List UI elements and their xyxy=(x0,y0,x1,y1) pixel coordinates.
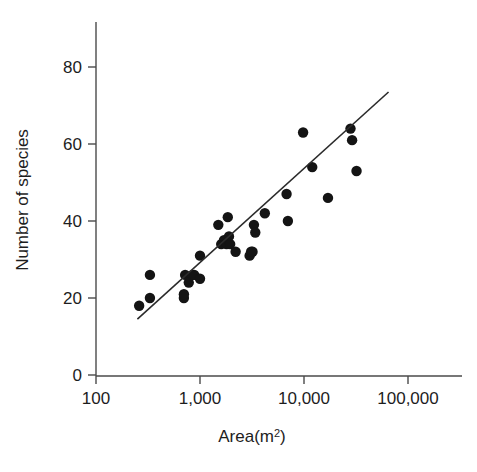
x-tick-label: 100,000 xyxy=(377,389,438,408)
data-point xyxy=(250,227,260,237)
data-point xyxy=(195,274,205,284)
y-tick-label: 0 xyxy=(73,366,82,385)
data-point xyxy=(347,135,357,145)
x-ticks-group: 1001,00010,000100,000 xyxy=(82,376,439,408)
data-point xyxy=(134,301,144,311)
data-point xyxy=(230,247,240,257)
x-axis-title: Area(m2) xyxy=(218,427,286,446)
y-axis-title: Number of species xyxy=(13,129,32,271)
data-point xyxy=(145,293,155,303)
regression-line-group xyxy=(137,92,388,319)
y-tick-label: 20 xyxy=(63,289,82,308)
y-tick-label: 60 xyxy=(63,135,82,154)
x-tick-label: 10,000 xyxy=(278,389,330,408)
axes-group xyxy=(96,22,462,376)
data-point xyxy=(247,247,257,257)
y-tick-label: 40 xyxy=(63,212,82,231)
data-point xyxy=(260,208,270,218)
data-point xyxy=(298,127,308,137)
data-point xyxy=(213,220,223,230)
species-area-scatter-figure: 020406080 1001,00010,000100,000 Area(m2)… xyxy=(0,0,477,472)
regression-line xyxy=(137,92,388,319)
x-tick-label: 100 xyxy=(82,389,110,408)
data-point xyxy=(281,189,291,199)
data-point xyxy=(323,193,333,203)
y-ticks-group: 020406080 xyxy=(63,58,96,385)
data-point xyxy=(345,123,355,133)
y-tick-label: 80 xyxy=(63,58,82,77)
data-point xyxy=(223,212,233,222)
data-point xyxy=(283,216,293,226)
x-tick-label: 1,000 xyxy=(179,389,222,408)
plot-canvas: 020406080 1001,00010,000100,000 Area(m2)… xyxy=(0,0,477,472)
data-point xyxy=(351,166,361,176)
data-points-group xyxy=(134,123,362,310)
data-point xyxy=(179,289,189,299)
data-point xyxy=(145,270,155,280)
